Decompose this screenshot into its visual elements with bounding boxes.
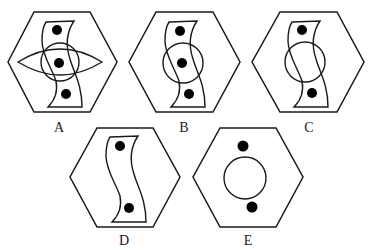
option-label-e: E — [244, 234, 253, 248]
option-label-b: B — [179, 121, 188, 135]
dot-top — [297, 25, 307, 35]
option-label-c: C — [304, 121, 313, 135]
dot-top — [238, 141, 249, 152]
circle-shape — [285, 42, 325, 82]
dot-top — [115, 141, 125, 151]
option-c-figure[interactable] — [252, 12, 364, 112]
dot-bottom — [184, 89, 194, 99]
option-label-a: A — [54, 121, 64, 135]
hexagon-shape — [70, 128, 180, 227]
dot-top — [52, 25, 62, 35]
option-d-figure[interactable] — [70, 128, 180, 227]
option-a-figure[interactable] — [8, 12, 117, 112]
hexagon-shape — [252, 12, 364, 112]
option-e-figure[interactable] — [193, 128, 303, 227]
cropped-caption-text — [120, 0, 320, 2]
dot-middle — [177, 58, 187, 68]
dot-bottom — [247, 202, 258, 213]
dot-bottom — [61, 89, 71, 99]
option-label-d: D — [119, 234, 129, 248]
dot-bottom — [307, 88, 317, 98]
dot-bottom — [124, 203, 134, 213]
circle-shape — [224, 157, 266, 199]
hexagon-shape — [193, 128, 303, 227]
option-b-figure[interactable] — [129, 12, 240, 112]
dot-middle — [54, 58, 64, 68]
dot-top — [175, 26, 185, 36]
